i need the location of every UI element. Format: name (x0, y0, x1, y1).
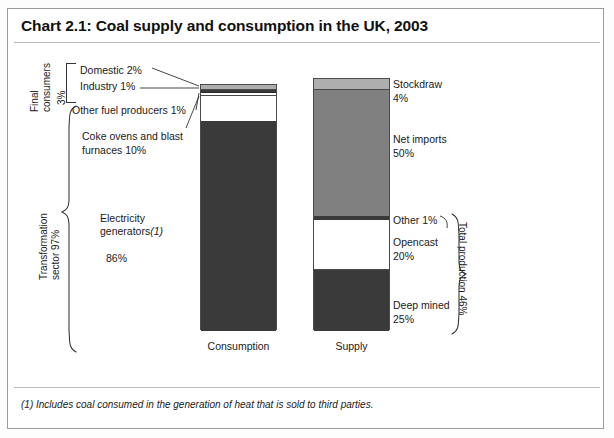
chart-figure: Chart 2.1: Coal supply and consumption i… (0, 0, 614, 438)
group-label-final-consumers: Final consumers (29, 63, 53, 112)
footnote-marker: (1) (150, 225, 163, 237)
callout-other-fuel-producers: Other fuel producers 1% (72, 104, 186, 118)
axis-label-supply: Supply (303, 340, 400, 352)
plot-area: Consumption Supply Final consumers 3% Tr… (0, 0, 614, 438)
callout-industry: Industry 1% (80, 80, 135, 94)
footnote-text: (1) Includes coal consumed in the genera… (21, 399, 581, 410)
callout-electricity-generators-pct: 86% (106, 252, 127, 264)
segment-net-imports (314, 90, 389, 216)
group-label-total-production: Total production 46% (456, 222, 468, 315)
segment-opencast (314, 220, 389, 270)
callout-deep-mined: Deep mined 25% (393, 299, 450, 326)
bracket-final-consumers (66, 63, 76, 103)
callout-opencast: Opencast 20% (393, 236, 438, 263)
segment-electricity-generators (201, 121, 276, 331)
segment-stockdraw (314, 79, 389, 90)
callout-coke-ovens: Coke ovens and blast furnaces 10% (82, 130, 183, 157)
callout-electricity-generators: Electricity generators(1) 86% (100, 198, 163, 266)
bar-supply (313, 78, 390, 330)
segment-coke-ovens (201, 96, 276, 121)
bar-consumption (200, 84, 277, 330)
callout-stockdraw: Stockdraw 4% (393, 78, 442, 105)
axis-label-consumption: Consumption (190, 340, 287, 352)
callout-domestic: Domestic 2% (80, 64, 142, 78)
group-label-transformation-sector: Transformation sector 97% (38, 213, 62, 280)
callout-net-imports: Net imports 50% (393, 133, 447, 160)
footnote-divider (14, 387, 600, 388)
segment-deep-mined (314, 270, 389, 331)
callout-other: Other 1% (393, 214, 437, 228)
callout-electricity-generators-text: Electricity generators (100, 212, 150, 238)
